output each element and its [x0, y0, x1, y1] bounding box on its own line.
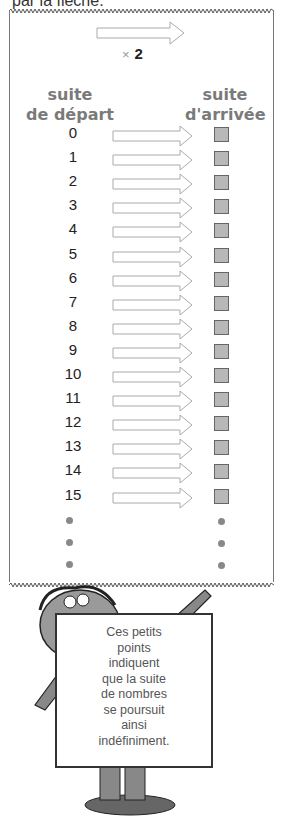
start-number: 3: [58, 196, 88, 213]
sign-line: de nombres: [57, 687, 211, 703]
ellipsis-dot: [218, 518, 225, 525]
ellipsis-dot: [66, 517, 73, 524]
result-box: [214, 489, 229, 504]
column-heading-end: suited'arrivée: [185, 85, 265, 125]
start-number: 7: [58, 293, 88, 310]
result-box: [214, 296, 229, 311]
start-number: 11: [58, 389, 88, 406]
mapping-arrow-icon: [112, 342, 194, 364]
start-number: 6: [58, 269, 88, 286]
sign-line: indiquent: [57, 656, 211, 672]
start-number: 12: [58, 413, 88, 430]
operator-label: ×2: [122, 45, 143, 62]
result-box: [214, 248, 229, 263]
start-number: 10: [58, 365, 88, 382]
start-number: 13: [58, 437, 88, 454]
mapping-arrow-icon: [112, 318, 194, 340]
result-box: [214, 272, 229, 287]
mapping-arrow-icon: [112, 173, 194, 195]
result-box: [214, 344, 229, 359]
sign-line: se poursuit: [57, 703, 211, 719]
mapping-arrow-icon: [112, 366, 194, 388]
result-box: [214, 151, 229, 166]
result-box: [214, 464, 229, 479]
mapping-arrow-icon: [112, 438, 194, 460]
sign-line: points: [57, 641, 211, 657]
mapping-arrow-icon: [112, 246, 194, 268]
result-box: [214, 175, 229, 190]
ellipsis-dot: [66, 561, 73, 568]
mapping-arrow-icon: [112, 390, 194, 412]
result-box: [214, 127, 229, 142]
result-box: [214, 416, 229, 431]
explanation-sign: Ces petitspointsindiquentque la suitede …: [55, 613, 213, 768]
result-box: [214, 223, 229, 238]
start-number: 5: [58, 245, 88, 262]
sign-line: ainsi: [57, 718, 211, 734]
result-box: [214, 392, 229, 407]
start-number: 9: [58, 341, 88, 358]
start-number: 14: [58, 461, 88, 478]
sign-line: Ces petits: [57, 625, 211, 641]
mapping-arrow-icon: [112, 221, 194, 243]
operator-arrow-icon: [96, 21, 186, 45]
mapping-arrow-icon: [112, 125, 194, 147]
sign-line: indéfiniment.: [57, 734, 211, 750]
result-box: [214, 199, 229, 214]
ellipsis-dot: [66, 539, 73, 546]
mapping-arrow-icon: [112, 197, 194, 219]
mapping-arrow-icon: [112, 462, 194, 484]
result-box: [214, 368, 229, 383]
start-number: 8: [58, 317, 88, 334]
start-number: 4: [58, 220, 88, 237]
mapping-arrow-icon: [112, 149, 194, 171]
mapping-arrow-icon: [112, 294, 194, 316]
start-number: 1: [58, 148, 88, 165]
sign-text: Ces petitspointsindiquentque la suitede …: [57, 625, 211, 749]
ellipsis-dot: [218, 562, 225, 569]
ellipsis-dot: [218, 540, 225, 547]
mapping-arrow-icon: [112, 414, 194, 436]
start-number: 2: [58, 172, 88, 189]
column-heading-start: suitede départ: [25, 85, 115, 125]
mapping-arrow-icon: [112, 487, 194, 509]
sign-line: que la suite: [57, 672, 211, 688]
start-number: 15: [58, 486, 88, 503]
result-box: [214, 440, 229, 455]
start-number: 0: [58, 124, 88, 141]
mapping-arrow-icon: [112, 270, 194, 292]
result-box: [214, 320, 229, 335]
